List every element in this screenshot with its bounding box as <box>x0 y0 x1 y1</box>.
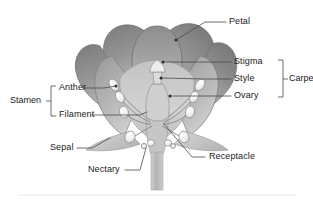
receptacle-and-stem <box>146 115 168 190</box>
bracket-stamen <box>51 86 56 116</box>
flower-illustration <box>0 0 313 202</box>
label-stigma: Stigma <box>234 57 263 66</box>
bracket-carpel <box>278 60 283 97</box>
label-carpel: Carpel <box>289 74 313 83</box>
ovary-shape <box>146 84 169 121</box>
label-petal: Petal <box>229 17 250 26</box>
label-receptacle: Receptacle <box>209 152 255 161</box>
flower-diagram-figure: Petal Stigma Style Ovary Carpel Anther F… <box>0 0 313 202</box>
label-anther: Anther <box>59 83 86 92</box>
label-ovary: Ovary <box>234 91 259 100</box>
leader-nectary <box>125 148 146 170</box>
label-filament: Filament <box>59 110 94 119</box>
label-nectary: Nectary <box>88 165 120 174</box>
label-stamen: Stamen <box>10 96 41 105</box>
label-style: Style <box>234 74 255 83</box>
label-sepal: Sepal <box>50 143 74 152</box>
